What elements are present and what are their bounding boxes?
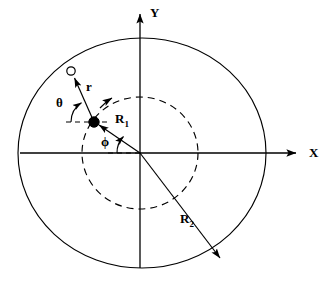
field-point-open-circle xyxy=(67,67,75,75)
geometry-diagram: Y X θ ϕ r R1 R2 xyxy=(0,0,328,284)
vector-R2 xyxy=(140,153,220,258)
source-point-filled-dot xyxy=(89,117,99,127)
theta-arc xyxy=(71,103,82,122)
r-vector-label: r xyxy=(86,80,92,93)
x-axis-label: X xyxy=(309,146,318,159)
y-axis-label: Y xyxy=(150,6,159,19)
R2-label-base: R xyxy=(180,211,189,226)
phi-label: ϕ xyxy=(101,135,109,148)
R2-label-subscript: 2 xyxy=(189,219,194,229)
R1-label: R1 xyxy=(115,112,129,129)
R2-label: R2 xyxy=(180,212,194,229)
diagram-canvas xyxy=(0,0,328,284)
R1-label-subscript: 1 xyxy=(124,119,129,129)
theta-label: θ xyxy=(56,96,63,109)
R1-label-base: R xyxy=(115,111,124,126)
counterclockwise-arrow-icon xyxy=(100,98,112,108)
